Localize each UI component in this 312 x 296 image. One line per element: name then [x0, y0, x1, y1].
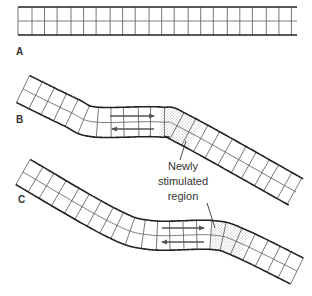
- cell-divider: [123, 107, 124, 137]
- cell-divider: [65, 99, 78, 126]
- cell-divider: [277, 173, 292, 199]
- cell-divider: [231, 147, 246, 173]
- panel-label-a: A: [16, 46, 23, 57]
- cell-divider: [16, 159, 30, 184]
- cell-divider: [16, 76, 29, 103]
- cell-divider: [267, 246, 280, 272]
- annotation-line-2: stimulated: [143, 174, 223, 189]
- annotation-line-3: region: [143, 189, 223, 204]
- cell-divider: [39, 173, 54, 198]
- cell-divider: [264, 165, 279, 191]
- annotation-line-1: Newly: [143, 159, 223, 174]
- cell-divider: [75, 194, 89, 219]
- cell-divider: [287, 178, 302, 204]
- cell-divider: [100, 207, 113, 233]
- cell-divider: [125, 217, 135, 244]
- cell-divider: [54, 94, 67, 121]
- panel-a-strip: [18, 7, 297, 35]
- cell-divider: [255, 160, 270, 186]
- pointer-line-c: [207, 203, 215, 228]
- cell-divider: [255, 240, 268, 266]
- cell-divider: [87, 201, 101, 226]
- panel-label-b: B: [16, 114, 23, 125]
- cell-divider: [28, 167, 43, 192]
- cell-divider: [241, 152, 256, 178]
- cell-divider: [205, 132, 220, 158]
- cell-divider: [52, 181, 67, 206]
- cell-divider: [196, 220, 197, 249]
- cell-divider: [291, 258, 304, 284]
- stimulated-strips-diagram: [0, 0, 312, 296]
- cell-divider: [65, 188, 80, 213]
- cell-divider: [29, 82, 42, 109]
- cell-divider: [41, 88, 54, 115]
- panel-label-c: C: [18, 194, 25, 205]
- cell-divider: [183, 221, 184, 250]
- cell-divider: [170, 221, 171, 250]
- dotted-stimulated-region: [211, 221, 251, 259]
- cell-divider: [138, 107, 139, 137]
- cell-divider: [278, 252, 291, 278]
- newly-stimulated-region-label: Newly stimulated region: [143, 159, 223, 204]
- cell-divider: [111, 212, 124, 238]
- cell-divider: [78, 106, 90, 134]
